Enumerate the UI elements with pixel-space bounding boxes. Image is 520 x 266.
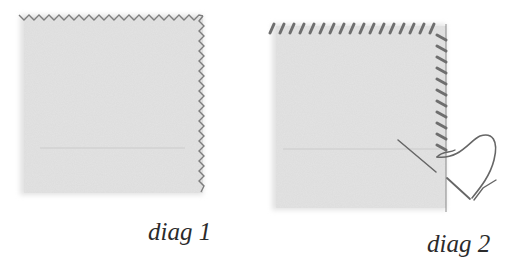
diagram-2 bbox=[270, 24, 496, 212]
diagram-1-label: diag 1 bbox=[148, 218, 211, 246]
sewing-diagrams bbox=[0, 0, 520, 266]
diagram-1 bbox=[19, 15, 204, 195]
diagram-2-label: diag 2 bbox=[427, 230, 490, 258]
